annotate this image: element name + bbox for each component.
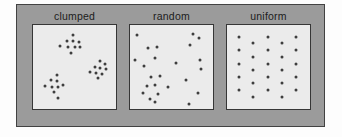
organism-dot: [295, 89, 298, 92]
organism-dot: [252, 96, 255, 99]
organism-dot: [65, 40, 68, 43]
organism-dot: [280, 82, 283, 85]
organism-dot: [280, 96, 283, 99]
panel-label-clumped: clumped: [32, 9, 117, 23]
organism-dot: [141, 92, 144, 95]
organism-dot: [252, 55, 255, 58]
organism-dot: [157, 93, 160, 96]
organism-dot: [198, 59, 201, 62]
organism-dot: [198, 37, 201, 40]
organism-dot: [150, 75, 153, 78]
organism-dot: [72, 40, 75, 43]
organism-dot: [238, 35, 241, 38]
organism-dot: [133, 59, 136, 62]
organism-dot: [280, 68, 283, 71]
organism-dot: [295, 75, 298, 78]
organism-dot: [53, 91, 56, 94]
organism-dot: [199, 68, 202, 71]
organism-dot: [99, 67, 102, 70]
organism-dot: [267, 49, 270, 52]
organism-dot: [280, 42, 283, 45]
organism-dot: [252, 82, 255, 85]
panel-label-random: random: [129, 9, 214, 23]
organism-dot: [99, 59, 102, 62]
organism-dot: [167, 86, 170, 89]
organism-dot: [147, 47, 150, 50]
organism-dot: [153, 101, 156, 104]
organism-dot: [104, 63, 107, 66]
organism-dot: [96, 76, 99, 79]
dot-field-uniform: [226, 24, 311, 110]
organism-dot: [149, 97, 152, 100]
organism-dot: [89, 70, 92, 73]
organism-dot: [153, 84, 156, 87]
organism-dot: [56, 85, 59, 88]
panel-clumped: clumped: [32, 9, 117, 110]
organism-dot: [72, 34, 75, 37]
organism-dot: [267, 35, 270, 38]
organism-dot: [189, 43, 192, 46]
organism-dot: [77, 41, 80, 44]
dot-field-random: [129, 24, 214, 110]
organism-dot: [267, 89, 270, 92]
organism-dot: [159, 74, 162, 77]
organism-dot: [192, 33, 195, 36]
organism-dot: [57, 96, 60, 99]
panel-uniform: uniform: [226, 9, 311, 110]
organism-dot: [93, 65, 96, 68]
organism-dot: [61, 84, 64, 87]
dot-field-clumped: [32, 24, 117, 110]
figure-canvas: clumped random uniform: [0, 0, 342, 137]
organism-dot: [238, 62, 241, 65]
organism-dot: [184, 79, 187, 82]
organism-dot: [78, 45, 81, 48]
organism-dot: [55, 73, 58, 76]
organism-dot: [295, 62, 298, 65]
organism-dot: [70, 51, 73, 54]
organism-dot: [295, 35, 298, 38]
organism-dot: [50, 79, 53, 82]
organism-dot: [267, 75, 270, 78]
organism-dot: [58, 45, 61, 48]
organism-dot: [136, 33, 139, 36]
organism-dot: [196, 92, 199, 95]
organism-dot: [280, 55, 283, 58]
organism-dot: [238, 49, 241, 52]
organism-dot: [104, 67, 107, 70]
organism-dot: [238, 75, 241, 78]
organism-dot: [154, 56, 157, 59]
organism-dot: [143, 64, 146, 67]
organism-dot: [100, 72, 103, 75]
organism-dot: [187, 102, 190, 105]
organism-dot: [252, 42, 255, 45]
organism-dot: [73, 46, 76, 49]
organism-dot: [146, 84, 149, 87]
organism-dot: [95, 71, 98, 74]
organism-dot: [67, 46, 70, 49]
panel-label-uniform: uniform: [226, 9, 311, 23]
organism-dot: [156, 46, 159, 49]
organism-dot: [238, 89, 241, 92]
organism-dot: [252, 68, 255, 71]
organism-dot: [267, 62, 270, 65]
organism-dot: [50, 85, 53, 88]
organism-dot: [44, 84, 47, 87]
panel-random: random: [129, 9, 214, 110]
organism-dot: [295, 49, 298, 52]
organism-dot: [56, 79, 59, 82]
dispersion-figure-frame: clumped random uniform: [16, 4, 325, 127]
organism-dot: [174, 61, 177, 64]
